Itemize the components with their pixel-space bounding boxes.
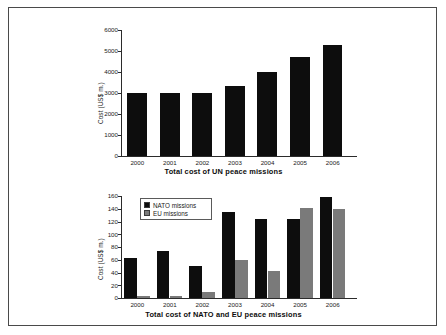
y-tick-label: 0 xyxy=(99,294,118,301)
y-tick-label: 4000 xyxy=(99,68,118,75)
figure-border: Cost (US$ m.) 0100020003000400050006000 … xyxy=(8,7,437,326)
bar-total-cost-of-un-peace-missions-2005 xyxy=(290,57,310,156)
x-tick-label: 2002 xyxy=(186,301,219,308)
bar-nato-missions-2006 xyxy=(320,197,333,298)
bar-eu-missions-2004 xyxy=(268,271,281,298)
nato-eu-cost-bar-chart: Cost (US$ m.) 020406080100120140160 2000… xyxy=(9,184,438,326)
legend-label: EU missions xyxy=(153,210,188,217)
legend-item: NATO missions xyxy=(144,201,207,209)
legend-label: NATO missions xyxy=(153,202,196,209)
y-tick-label: 6000 xyxy=(99,26,118,33)
x-tick-label: 2003 xyxy=(219,301,252,308)
y-tick-label: 1000 xyxy=(99,131,118,138)
nato-eu-chart-x-axis-line xyxy=(121,298,357,299)
bar-nato-missions-2005 xyxy=(287,219,300,298)
x-tick-label: 2005 xyxy=(284,301,317,308)
x-tick-label: 2002 xyxy=(186,159,219,166)
x-tick-label: 2004 xyxy=(251,301,284,308)
bar-eu-missions-2006 xyxy=(333,209,346,298)
bar-total-cost-of-un-peace-missions-2006 xyxy=(323,45,343,156)
x-tick-label: 2000 xyxy=(121,301,154,308)
un-chart-title: Total cost of UN peace missions xyxy=(9,167,438,176)
bar-total-cost-of-un-peace-missions-2003 xyxy=(225,86,245,156)
x-tick-label: 2006 xyxy=(316,159,349,166)
y-tick-label: 20 xyxy=(99,282,118,289)
bar-eu-missions-2005 xyxy=(300,208,313,298)
x-tick-label: 2000 xyxy=(121,159,154,166)
un-chart-plot-wrap: Cost (US$ m.) 0100020003000400050006000 … xyxy=(9,12,438,180)
y-tick-label: 160 xyxy=(99,192,118,199)
nato-eu-chart-legend: NATO missionsEU missions xyxy=(140,198,212,220)
bar-eu-missions-2002 xyxy=(202,292,215,298)
x-tick-label: 2004 xyxy=(251,159,284,166)
bar-total-cost-of-un-peace-missions-2004 xyxy=(257,72,277,156)
bar-eu-missions-2001 xyxy=(170,296,183,298)
un-chart-x-axis-line xyxy=(121,156,357,157)
bar-nato-missions-2003 xyxy=(222,212,235,298)
y-tick-label: 40 xyxy=(99,269,118,276)
bar-total-cost-of-un-peace-missions-2001 xyxy=(160,93,180,156)
bar-eu-missions-2003 xyxy=(235,260,248,298)
bar-eu-missions-2000 xyxy=(137,296,150,298)
bar-nato-missions-2004 xyxy=(255,219,268,298)
y-tick-label: 80 xyxy=(99,243,118,250)
y-tick-label: 140 xyxy=(99,205,118,212)
nato-eu-chart-title: Total cost of NATO and EU peace missions xyxy=(9,310,438,319)
y-tick-label: 60 xyxy=(99,256,118,263)
bar-nato-missions-2002 xyxy=(189,266,202,298)
legend-swatch-icon xyxy=(144,202,150,208)
y-tick-label: 3000 xyxy=(99,89,118,96)
legend-swatch-icon xyxy=(144,210,150,216)
x-tick-label: 2001 xyxy=(154,301,187,308)
bar-nato-missions-2000 xyxy=(124,258,137,298)
bar-total-cost-of-un-peace-missions-2000 xyxy=(127,93,147,156)
legend-item: EU missions xyxy=(144,209,207,217)
x-tick-label: 2005 xyxy=(284,159,317,166)
nato-eu-chart-plot-wrap: Cost (US$ m.) 020406080100120140160 2000… xyxy=(9,184,438,326)
x-tick-label: 2003 xyxy=(219,159,252,166)
y-tick-label: 100 xyxy=(99,231,118,238)
un-chart-bars xyxy=(121,30,349,156)
y-tick-label: 5000 xyxy=(99,47,118,54)
x-tick-label: 2001 xyxy=(154,159,187,166)
un-cost-bar-chart: Cost (US$ m.) 0100020003000400050006000 … xyxy=(9,12,438,180)
y-tick-label: 0 xyxy=(99,152,118,159)
x-tick-label: 2006 xyxy=(316,301,349,308)
y-tick-label: 2000 xyxy=(99,110,118,117)
bar-nato-missions-2001 xyxy=(157,251,170,298)
y-tick-label: 120 xyxy=(99,218,118,225)
bar-total-cost-of-un-peace-missions-2002 xyxy=(192,93,212,156)
